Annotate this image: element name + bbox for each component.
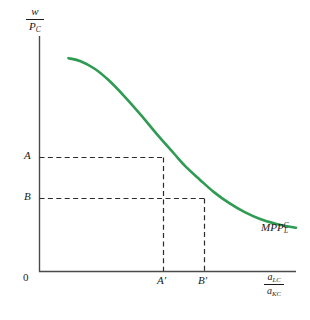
y-axis-numerator: w bbox=[26, 6, 44, 20]
y-axis-denominator-base: P bbox=[29, 20, 36, 32]
curve-label-mpp: MPPCL bbox=[261, 222, 288, 235]
y-tick-label-b: B bbox=[24, 191, 31, 202]
x-axis-denominator: aKC bbox=[264, 285, 284, 297]
x-axis-denominator-subscript: KC bbox=[272, 290, 281, 297]
x-tick-label-b-prime: B' bbox=[198, 275, 207, 286]
x-tick-label-a-prime: A' bbox=[157, 275, 166, 286]
origin-label: 0 bbox=[23, 272, 29, 283]
curve-label-subscript: L bbox=[284, 226, 288, 235]
y-axis-denominator-subscript: C bbox=[36, 25, 41, 34]
curve-label-base: MPP bbox=[261, 221, 284, 233]
x-axis-title: aLC aKC bbox=[264, 272, 284, 297]
y-axis-denominator: PC bbox=[26, 20, 44, 34]
mpp-curve bbox=[68, 58, 296, 228]
y-tick-label-a: A bbox=[24, 150, 31, 161]
x-axis-numerator: aLC bbox=[264, 272, 284, 285]
y-axis-title: w PC bbox=[26, 6, 44, 34]
x-axis-numerator-subscript: LC bbox=[272, 276, 280, 283]
chart-figure: w PC aLC aKC 0 A B A' B' MPPCL bbox=[0, 0, 310, 320]
